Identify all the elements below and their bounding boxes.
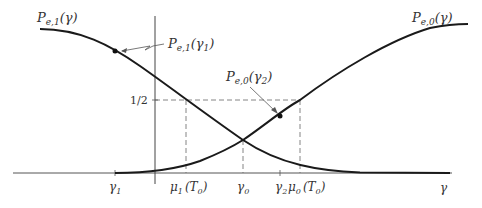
mu0-label: μ0(T0) bbox=[288, 180, 326, 196]
pe0-point-leader bbox=[250, 87, 276, 112]
gamma1-label: γ1 bbox=[109, 180, 121, 196]
pe1-gamma1-point bbox=[113, 49, 118, 54]
dashed-guides bbox=[155, 100, 300, 173]
pe1-curve-label: Pe,1(γ) bbox=[36, 10, 78, 27]
pe0-curve-label: Pe,0(γ) bbox=[411, 10, 453, 27]
pe1-gamma1-label: Pe,1(γ1) bbox=[167, 36, 214, 53]
mu1-label: μ1(T0) bbox=[170, 180, 208, 196]
x-axis-label: γ bbox=[440, 181, 448, 195]
gamma0-label: γ0 bbox=[237, 180, 249, 196]
pe1-point-leader bbox=[122, 44, 164, 51]
pe0-gamma2-label: Pe,0(γ2) bbox=[225, 69, 272, 86]
pe0-gamma2-point bbox=[278, 114, 283, 119]
error-probability-diagram: Pe,1(γ) Pe,0(γ) Pe,1(γ1) Pe,0(γ2) 1/2 γ1… bbox=[0, 0, 482, 208]
gamma2-label: γ2 bbox=[275, 180, 287, 196]
pe1-curve bbox=[40, 29, 450, 173]
pe1-leader-arrow-icon bbox=[121, 48, 127, 53]
half-label: 1/2 bbox=[130, 94, 148, 107]
